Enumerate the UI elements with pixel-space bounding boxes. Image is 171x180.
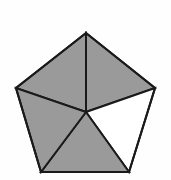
- figure-canvas: [0, 0, 171, 180]
- pentagon-figure: [0, 0, 171, 180]
